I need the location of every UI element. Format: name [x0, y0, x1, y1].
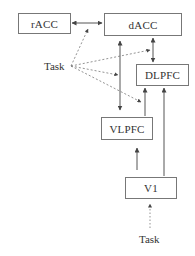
node-vlpfc: VLPFC	[101, 117, 153, 140]
node-dacc-label: dACC	[129, 19, 158, 31]
task-label-left: Task	[44, 60, 65, 72]
edge-task-vlpfc-dlpfc	[71, 66, 141, 102]
node-dlpfc: DLPFC	[136, 64, 189, 86]
node-dacc: dACC	[104, 13, 182, 36]
node-dlpfc-label: DLPFC	[145, 69, 180, 81]
node-racc: rACC	[18, 13, 71, 34]
node-vlpfc-label: VLPFC	[109, 123, 144, 135]
edge-task-racc-dacc	[71, 29, 88, 66]
node-v1: V1	[125, 177, 177, 199]
connection-wires	[0, 0, 195, 256]
task-label-bottom: Task	[139, 233, 160, 245]
node-racc-label: rACC	[31, 18, 58, 30]
edge-task-dacc-vlpfc	[71, 66, 118, 75]
node-v1-label: V1	[144, 182, 158, 194]
